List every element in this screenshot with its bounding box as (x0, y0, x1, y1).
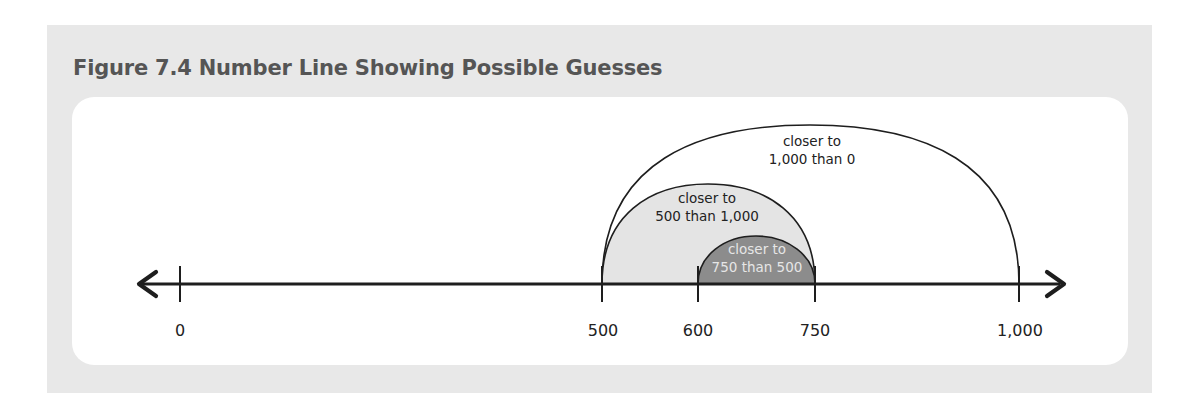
tick-label-750: 750 (800, 321, 831, 340)
arc-label-large-line2: 1,000 than 0 (769, 151, 856, 167)
arc-label-medium-line1: closer to (678, 190, 736, 206)
arc-label-medium-line2: 500 than 1,000 (655, 208, 759, 224)
tick-label-500: 500 (588, 321, 619, 340)
arc-label-small-line1: closer to (728, 241, 786, 257)
arc-label-large-line1: closer to (783, 133, 841, 149)
tick-label-1000: 1,000 (997, 321, 1043, 340)
arc-label-small-line2: 750 than 500 (712, 259, 803, 275)
tick-label-600: 600 (683, 321, 714, 340)
number-line-diagram: closer to 1,000 than 0 closer to 500 tha… (0, 0, 1202, 416)
tick-label-0: 0 (175, 321, 185, 340)
